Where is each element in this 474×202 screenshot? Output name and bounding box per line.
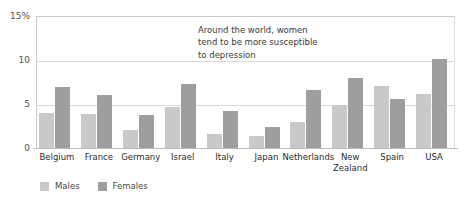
bar-males [165,107,180,148]
y-tick-label: 10 [19,56,30,65]
bar-females [97,95,112,148]
bar-males [39,113,54,148]
legend-label: Males [55,182,80,191]
bar-males [290,122,305,148]
bar-females [181,84,196,148]
y-tick-label: 15% [10,12,30,21]
bar-males [416,94,431,148]
bar-males [123,130,138,148]
bar-males [374,86,389,148]
bar-females [55,87,70,148]
bar-females [348,78,363,148]
bar-group [120,16,162,148]
chart-legend: MalesFemales [40,182,148,191]
bar-females [223,111,238,148]
x-axis-category-labels: BelgiumFranceGermanyIsraelItalyJapanNeth… [36,152,455,182]
legend-item-males[interactable]: Males [40,182,80,191]
bar-females [139,115,154,148]
bar-group [371,16,413,148]
bar-males [207,134,222,148]
bar-chart: 15%1050 Around the world, women tend to … [0,0,474,202]
bar-group [413,16,455,148]
bar-males [332,105,347,148]
bar-group [36,16,78,148]
legend-label: Females [113,182,148,191]
bar-females [265,127,280,148]
bar-females [306,90,321,148]
bar-males [81,114,96,148]
y-tick-label: 5 [24,100,30,109]
bar-males [249,136,264,148]
x-axis-baseline [34,148,458,149]
y-axis: 15%1050 [0,0,34,202]
legend-item-females[interactable]: Females [98,182,148,191]
bar-group [78,16,120,148]
bar-females [432,59,447,148]
x-tick-label: USA [407,152,461,163]
legend-swatch-icon [40,182,49,191]
chart-annotation: Around the world, women tend to be more … [198,24,373,61]
bar-females [390,99,405,148]
legend-swatch-icon [98,182,107,191]
